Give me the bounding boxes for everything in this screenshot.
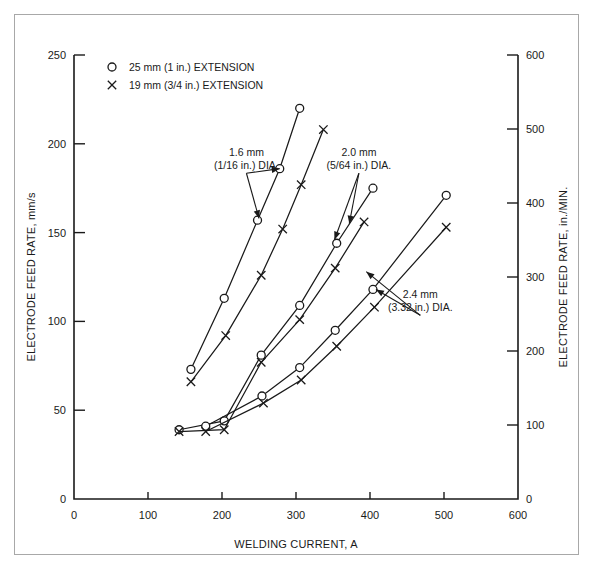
y-tick-label-100: 100 [48,315,66,327]
y2-tick-label-200: 200 [526,345,544,357]
cross-marker [187,378,195,386]
cross-marker [257,271,265,279]
y2-tick-label-100: 100 [526,419,544,431]
plot-axes-frame [74,55,518,499]
welding-feed-rate-chart: 0100200300400500600WELDING CURRENT, A050… [15,15,578,554]
cross-marker [297,180,305,188]
circle-marker [254,216,262,224]
circle-marker [369,285,377,293]
circle-marker [296,104,304,112]
circle-marker [369,184,377,192]
dia-2-4-arrowhead-0 [366,272,374,280]
y-tick-label-250: 250 [48,49,66,61]
x-tick-label-0: 0 [71,509,77,521]
series-line-2 [179,188,373,430]
dia-2-4-arrowhead-1 [376,289,385,296]
circle-marker [220,294,228,302]
circle-marker [442,191,450,199]
cross-marker [278,225,286,233]
dia-2-0-leader-0 [334,173,358,239]
x-tick-label-100: 100 [139,509,157,521]
figure-frame: 0100200300400500600WELDING CURRENT, A050… [14,14,579,555]
legend-label-1: 19 mm (3/4 in.) EXTENSION [129,79,263,91]
circle-marker [108,63,116,71]
cross-marker [360,218,368,226]
x-tick-label-200: 200 [213,509,231,521]
circle-marker [175,426,183,434]
cross-marker [319,125,327,133]
circle-marker [296,301,304,309]
circle-marker [331,326,339,334]
dia-2-0-label-line-0: 2.0 mm [341,146,376,158]
y-tick-label-200: 200 [48,138,66,150]
cross-marker [333,342,341,350]
circle-marker [187,365,195,373]
circle-marker [258,392,266,400]
y2-axis-title: ELECTRODE FEED RATE, in./MIN. [557,186,569,367]
y-tick-label-0: 0 [60,493,66,505]
dia-1-6-label-line-0: 1.6 mm [229,146,264,158]
circle-marker [333,239,341,247]
dia-2-4-label-line-1: (3.32 in.) DIA. [388,301,453,313]
x-tick-label-500: 500 [435,509,453,521]
y-tick-label-150: 150 [48,227,66,239]
cross-marker [297,376,305,384]
dia-1-6-label-line-1: (1/16 in.) DIA. [214,159,279,171]
cross-marker [108,81,116,89]
y2-tick-label-600: 600 [526,49,544,61]
cross-marker [296,315,304,323]
dia-2-4-label-line-0: 2.4 mm [403,288,438,300]
cross-marker [222,331,230,339]
x-tick-label-400: 400 [361,509,379,521]
y-tick-label-50: 50 [54,404,66,416]
y2-tick-label-0: 0 [526,493,532,505]
x-axis-title: WELDING CURRENT, A [234,538,358,550]
x-tick-label-300: 300 [287,509,305,521]
y2-tick-label-400: 400 [526,197,544,209]
circle-marker [257,351,265,359]
y2-tick-label-500: 500 [526,123,544,135]
circle-marker [296,364,304,372]
cross-marker [331,264,339,272]
y-axis-title: ELECTRODE FEED RATE, mm/s [25,192,37,361]
cross-marker [370,303,378,311]
x-tick-label-600: 600 [509,509,527,521]
cross-marker [442,223,450,231]
legend-label-0: 25 mm (1 in.) EXTENSION [129,61,254,73]
y2-tick-label-300: 300 [526,271,544,283]
dia-2-0-label-line-1: (5/64 in.) DIA. [327,159,392,171]
